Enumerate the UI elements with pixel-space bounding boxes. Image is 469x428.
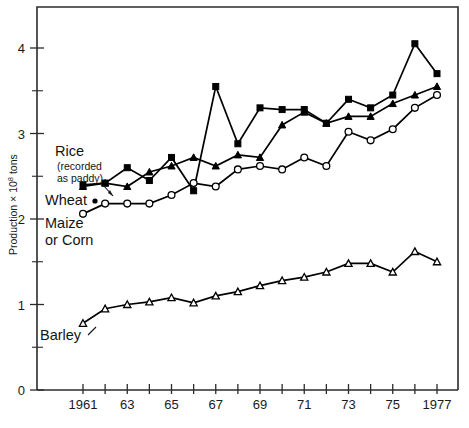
- y-tick-label: 4: [18, 41, 25, 56]
- x-tick-label: 67: [209, 397, 223, 412]
- marker-open-triangle: [234, 288, 241, 295]
- y-tick-label: 3: [18, 127, 25, 142]
- marker-filled-square: [169, 154, 175, 160]
- y-tick-label: 1: [18, 298, 25, 313]
- production-line-chart: 01234 1961636567697173751977 Production …: [0, 0, 469, 428]
- plot-frame: [37, 7, 458, 390]
- marker-open-triangle: [102, 305, 109, 312]
- marker-filled-square: [257, 105, 263, 111]
- series-rice-recorded-as-paddy: [80, 41, 440, 194]
- marker-open-triangle: [190, 299, 197, 306]
- y-axis-ticks: 01234: [18, 41, 44, 398]
- marker-open-circle: [212, 183, 219, 190]
- x-tick-label: 63: [120, 397, 134, 412]
- x-tick-label: 71: [297, 397, 311, 412]
- marker-open-triangle: [345, 260, 352, 267]
- marker-open-circle: [190, 180, 197, 187]
- x-tick-label: 65: [164, 397, 178, 412]
- marker-open-triangle: [279, 277, 286, 284]
- marker-filled-square: [146, 178, 152, 184]
- marker-filled-triangle: [433, 83, 440, 90]
- marker-filled-square: [213, 83, 219, 89]
- marker-open-triangle: [301, 274, 308, 281]
- marker-open-circle: [345, 128, 352, 135]
- annotation-wheat: Wheat: [45, 192, 98, 208]
- series-polyline: [83, 86, 437, 186]
- y-axis-title: Production × 108 tons: [6, 154, 19, 255]
- marker-open-triangle: [124, 301, 131, 308]
- marker-open-circle: [168, 192, 175, 199]
- marker-open-triangle: [256, 282, 263, 289]
- marker-open-triangle: [367, 260, 374, 267]
- x-tick-label: 73: [341, 397, 355, 412]
- marker-filled-square: [124, 165, 130, 171]
- marker-filled-triangle: [279, 121, 286, 128]
- marker-open-circle: [301, 154, 308, 161]
- marker-filled-triangle: [190, 154, 197, 161]
- rice-sublabel-line2: as paddy): [57, 172, 103, 184]
- marker-filled-square: [368, 105, 374, 111]
- marker-filled-square: [191, 188, 197, 194]
- marker-filled-square: [434, 71, 440, 77]
- marker-filled-square: [346, 96, 352, 102]
- marker-filled-square: [279, 107, 285, 113]
- series-barley: [79, 248, 440, 326]
- annotation-maize: Maize or Corn: [45, 215, 93, 248]
- series-plot-group: [79, 41, 440, 327]
- marker-open-triangle: [212, 292, 219, 299]
- maize-label-line1: Maize: [45, 215, 84, 231]
- y-tick-label: 0: [18, 383, 25, 398]
- marker-filled-square: [390, 92, 396, 98]
- chart-canvas: 01234 1961636567697173751977 Production …: [0, 0, 469, 428]
- marker-open-circle: [389, 126, 396, 133]
- marker-open-circle: [146, 200, 153, 207]
- x-tick-label: 75: [386, 397, 400, 412]
- x-axis-ticks: 1961636567697173751977: [69, 384, 452, 412]
- rice-sublabel-line1: (recorded: [57, 160, 102, 172]
- x-tick-label: 1977: [423, 397, 452, 412]
- marker-open-circle: [323, 163, 330, 170]
- marker-open-triangle: [323, 268, 330, 275]
- marker-filled-square: [412, 41, 418, 47]
- annotation-barley: Barley: [40, 327, 96, 343]
- y-axis-title-text: Production × 108 tons: [6, 154, 19, 255]
- marker-open-circle: [102, 200, 109, 207]
- marker-open-triangle: [411, 248, 418, 255]
- marker-open-circle: [411, 104, 418, 111]
- marker-open-circle: [434, 92, 441, 99]
- marker-open-circle: [234, 166, 241, 173]
- marker-open-triangle: [146, 298, 153, 305]
- marker-open-circle: [257, 163, 264, 170]
- barley-leader-line: [88, 327, 96, 335]
- wheat-label-dot: [92, 198, 97, 203]
- marker-filled-square: [235, 141, 241, 147]
- maize-label-line2: or Corn: [45, 232, 93, 248]
- marker-open-triangle: [433, 258, 440, 265]
- marker-open-circle: [124, 200, 131, 207]
- marker-open-circle: [279, 166, 286, 173]
- marker-open-circle: [367, 137, 374, 144]
- barley-label: Barley: [40, 327, 82, 343]
- x-tick-label: 1961: [69, 397, 98, 412]
- rice-label: Rice: [55, 143, 84, 159]
- axis-frame-path: [37, 7, 458, 390]
- wheat-label: Wheat: [45, 192, 87, 208]
- marker-open-triangle: [168, 294, 175, 301]
- x-tick-label: 69: [253, 397, 267, 412]
